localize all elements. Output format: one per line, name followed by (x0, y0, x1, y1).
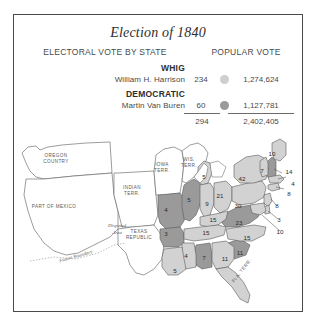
electoral-total: 294 (184, 117, 220, 126)
popular-votes-whig: 1,274,624 (226, 75, 296, 84)
electoral-votes-whig: 234 (190, 75, 212, 84)
election-map-figure: Election of 1840 ELECTORAL VOTE BY STATE… (13, 14, 303, 312)
map-state-shapes (22, 139, 286, 303)
popular-votes-democratic: 1,127,781 (226, 101, 296, 110)
popular-total: 2,402,405 (228, 117, 294, 126)
party-name-whig: WHIG (55, 63, 185, 73)
map-svg (14, 133, 303, 312)
candidate-name-whig: William H. Harrison (35, 75, 185, 84)
us-map-1840: OREGONCOUNTRY PART OF MEXICO INDIANTERR.… (14, 133, 303, 312)
figure-title: Election of 1840 (14, 25, 302, 41)
electoral-vote-heading: ELECTORAL VOTE BY STATE (25, 47, 185, 57)
candidate-name-democratic: Martin Van Buren (35, 101, 185, 110)
popular-vote-heading: POPULAR VOTE (196, 47, 296, 57)
popular-total-rule (228, 113, 294, 114)
party-name-democratic: DEMOCRATIC (55, 89, 185, 99)
electoral-votes-democratic: 60 (190, 101, 212, 110)
electoral-total-rule (184, 113, 220, 114)
